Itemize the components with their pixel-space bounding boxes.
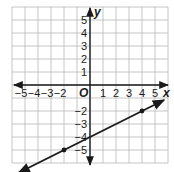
origin-label: O: [79, 86, 89, 100]
y-tick-label: 5: [81, 14, 87, 26]
y-tick-label: −3: [74, 118, 87, 130]
data-point: [62, 148, 67, 153]
y-tick-label: 1: [81, 66, 87, 78]
x-tick-label: −3: [41, 87, 54, 99]
x-tick-label: 1: [100, 87, 106, 99]
y-tick-label: 2: [81, 53, 87, 65]
y-tick-label: −2: [74, 105, 87, 117]
x-tick-label: −4: [28, 87, 41, 99]
x-tick-label: 2: [113, 87, 119, 99]
y-axis-label: y: [93, 5, 102, 19]
coordinate-plane: xyO−5−4−3−21234554321−2−3−4−5: [0, 0, 174, 172]
x-tick-label: −2: [54, 87, 67, 99]
y-tick-label: 4: [81, 27, 87, 39]
x-tick-label: −5: [15, 87, 28, 99]
data-point: [140, 109, 145, 114]
x-tick-label: 4: [139, 87, 145, 99]
x-tick-label: 5: [152, 87, 158, 99]
y-tick-label: 3: [81, 40, 87, 52]
x-tick-label: 3: [126, 87, 132, 99]
y-tick-label: −5: [74, 144, 87, 156]
x-axis-label: x: [162, 86, 171, 100]
